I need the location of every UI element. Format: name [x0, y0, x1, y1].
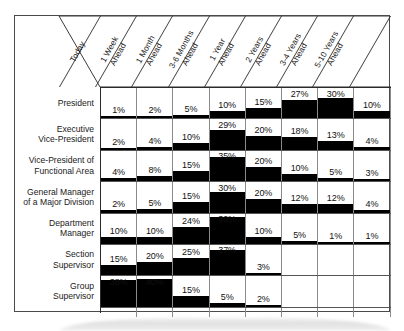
value-bar [354, 210, 389, 213]
value-bar [282, 174, 317, 181]
column-header-1: Today [59, 16, 96, 87]
value-bar [282, 100, 317, 119]
value-bar [210, 111, 245, 118]
data-cell: 18% [282, 119, 318, 149]
data-cell: 4% [137, 119, 173, 149]
value-label: 4% [354, 136, 389, 146]
value-label: 3% [246, 262, 281, 272]
value-bar [137, 147, 172, 150]
row-label-2: ExecutiveVice-President [15, 124, 94, 145]
data-cell: 2% [246, 276, 282, 306]
value-bar [137, 176, 172, 182]
data-cell: 24% [173, 214, 209, 244]
value-bar [101, 116, 136, 118]
value-bar [246, 136, 281, 150]
value-bar [173, 227, 208, 244]
value-label: 30% [318, 89, 353, 99]
data-cell: 39% [210, 214, 246, 244]
data-cell: 2% [101, 182, 137, 212]
value-label: 24% [173, 216, 208, 226]
value-bar [246, 273, 281, 275]
value-label: 38% [101, 277, 136, 287]
column-header-8: 5-10 YearsAhead [312, 16, 349, 87]
data-cell: 12% [318, 182, 354, 212]
value-label: 29% [210, 120, 245, 130]
value-label: 20% [246, 156, 281, 166]
data-cell [282, 276, 318, 306]
value-label: 5% [137, 198, 172, 208]
value-label: 15% [173, 285, 208, 295]
table-row: 15%20%25%37%3% [101, 245, 391, 276]
data-cell [318, 245, 354, 275]
data-cell: 30% [210, 182, 246, 212]
data-cell: 5% [137, 182, 173, 212]
data-cell-empty [318, 308, 354, 317]
data-cell: 37% [210, 245, 246, 275]
value-bar [173, 296, 208, 306]
column-header-7: 3-4 YearsAhead [276, 16, 313, 87]
data-grid: 1%2%5%10%15%27%30%10%2%4%10%29%20%18%13%… [100, 87, 391, 313]
value-label: 10% [354, 100, 389, 110]
value-label: 5% [173, 104, 208, 114]
value-bar [318, 178, 353, 181]
value-bar [173, 143, 208, 150]
value-label: 25% [173, 247, 208, 257]
data-cell: 3% [246, 245, 282, 275]
header-slant-rule [349, 16, 391, 87]
value-label: 10% [282, 163, 317, 173]
value-label: 20% [137, 251, 172, 261]
value-label: 12% [282, 193, 317, 203]
data-cell: 25% [173, 245, 209, 275]
value-bar [101, 178, 136, 181]
value-label: 5% [210, 292, 245, 302]
value-label: 35% [210, 151, 245, 161]
value-label: 15% [173, 191, 208, 201]
table-row: 4%8%15%35%20%10%5%3% [101, 151, 391, 182]
value-label: 40% [137, 277, 172, 287]
data-cell: 27% [282, 88, 318, 118]
data-cell: 4% [354, 119, 390, 149]
data-cell [354, 245, 390, 275]
data-cell: 15% [101, 245, 137, 275]
value-bar [173, 171, 208, 181]
value-bar [282, 241, 317, 244]
data-cell: 5% [173, 88, 209, 118]
data-cell: 15% [173, 276, 209, 306]
column-header-5: 1 YearAhead [204, 16, 241, 87]
value-bar [318, 204, 353, 212]
data-cell: 15% [246, 88, 282, 118]
column-header-6: 2 YearsAhead [240, 16, 277, 87]
data-cell: 40% [137, 276, 173, 306]
data-cell [282, 245, 318, 275]
data-cell-empty [173, 308, 209, 317]
data-cell-empty [354, 308, 390, 317]
data-cell-empty [210, 308, 246, 317]
value-bar [173, 258, 208, 275]
column-header-4: 3-6 MonthsAhead [168, 16, 205, 87]
data-cell: 2% [101, 119, 137, 149]
value-label: 13% [318, 130, 353, 140]
data-cell: 15% [173, 151, 209, 181]
value-label: 5% [282, 230, 317, 240]
value-label: 8% [137, 165, 172, 175]
grid-footer-strip [101, 308, 391, 317]
data-cell: 1% [318, 214, 354, 244]
value-label: 15% [246, 97, 281, 107]
data-cell: 8% [137, 151, 173, 181]
value-label: 1% [101, 105, 136, 115]
data-cell: 10% [210, 88, 246, 118]
data-cell: 2% [137, 88, 173, 118]
row-label-5: DepartmentManager [15, 218, 94, 239]
value-label: 1% [354, 231, 389, 241]
data-cell-empty [246, 308, 282, 317]
value-label: 39% [210, 214, 245, 224]
table-row: 10%10%24%39%10%5%1%1% [101, 214, 391, 245]
value-bar [101, 265, 136, 275]
data-cell: 38% [101, 276, 137, 306]
value-bar [137, 116, 172, 118]
value-label: 12% [318, 193, 353, 203]
data-cell: 10% [101, 214, 137, 244]
value-bar [173, 202, 208, 212]
value-label: 2% [101, 137, 136, 147]
value-bar [137, 209, 172, 212]
